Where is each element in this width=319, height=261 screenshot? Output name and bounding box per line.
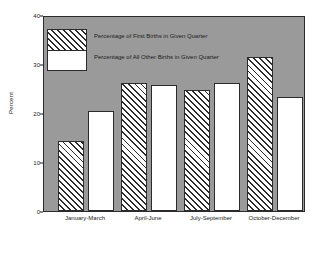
bar-first-births <box>247 57 273 211</box>
x-axis-tick-label: April-June <box>134 215 161 221</box>
bar-other-births <box>214 83 240 211</box>
legend-swatch-box <box>47 29 87 71</box>
y-axis-tick-mark <box>40 163 43 164</box>
bar-first-births <box>184 90 210 211</box>
y-axis-label: Percent <box>8 78 14 128</box>
legend-swatch-other-births <box>48 51 86 70</box>
bar-other-births <box>151 85 177 211</box>
legend-swatch-first-births <box>48 30 86 51</box>
x-axis-tick-label: January-March <box>65 215 105 221</box>
bar-chart: Percent 010203040 January-MarchApril-Jun… <box>0 0 319 261</box>
bar-other-births <box>277 97 303 211</box>
y-axis-tick-mark <box>40 114 43 115</box>
bar-first-births <box>58 141 84 211</box>
legend-label-first-births: Percentage of First Births in Given Quar… <box>94 33 207 39</box>
y-axis-tick-mark <box>40 212 43 213</box>
bar-group <box>247 17 303 211</box>
bar-first-births <box>121 83 147 211</box>
bar-group <box>184 17 240 211</box>
y-axis-tick-mark <box>40 65 43 66</box>
bar-group <box>121 17 177 211</box>
bar-other-births <box>88 111 114 211</box>
y-axis-tick-mark <box>40 16 43 17</box>
legend-label-other-births: Percentage of All Other Births in Given … <box>94 54 219 60</box>
x-axis-tick-label: July-September <box>190 215 232 221</box>
x-axis-tick-label: October-December <box>248 215 299 221</box>
